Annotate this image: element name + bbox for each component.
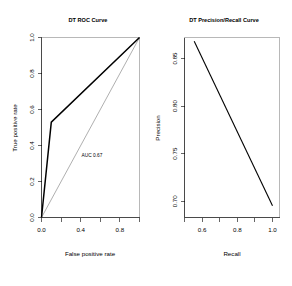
roc-plot-title: DT ROC Curve [69,17,108,23]
roc-y-tick-label-3: 0.6 [28,105,35,114]
roc-y-tick-label-4: 0.8 [28,69,35,78]
roc-y-tick-labels: 0.0 0.2 0.4 0.6 0.8 1.0 [28,33,35,222]
roc-auc-annotation: AUC 0.67 [82,153,103,158]
roc-curve-panel: DT ROC Curve 0.0 0.2 0.4 0.6 [0,0,150,286]
roc-y-tick-label-2: 0.4 [28,141,35,150]
pr-y-tick-label-2: 0.80 [171,100,178,113]
pr-x-tick-label-1: 0.6 [198,226,207,233]
pr-x-ticks [185,218,273,222]
roc-y-tick-label-5: 1.0 [28,33,35,42]
roc-x-axis-title: False positive rate [65,250,116,257]
figure-canvas: DT ROC Curve 0.0 0.2 0.4 0.6 [0,0,292,286]
pr-y-ticks [181,59,185,202]
pr-x-tick-label-5: 1.0 [268,226,277,233]
pr-y-tick-label-3: 0.85 [171,52,178,65]
roc-x-tick-label-4: 0.8 [116,226,125,233]
pr-plot-title: DT Precision/Recall Curve [189,17,259,23]
roc-x-tick-label-0: 0.0 [37,226,46,233]
pr-y-axis-title: Precision [154,115,161,141]
roc-y-tick-label-0: 0.0 [28,213,35,222]
roc-plot-svg: DT ROC Curve 0.0 0.2 0.4 0.6 [0,0,150,286]
roc-x-ticks [42,218,140,222]
pr-x-axis-title: Recall [223,250,240,257]
pr-curve-line [194,41,272,206]
pr-y-tick-labels: 0.70 0.75 0.80 0.85 [171,52,178,207]
roc-reference-line [42,38,140,218]
pr-x-tick-labels: 0.6 0.8 1.0 [198,226,278,233]
roc-y-axis-title: True positive rate [11,104,18,152]
pr-plot-svg: DT Precision/Recall Curve 0.70 0.75 0.80… [146,0,292,286]
roc-y-ticks [38,38,42,218]
roc-y-tick-label-1: 0.2 [28,177,35,186]
precision-recall-panel: DT Precision/Recall Curve 0.70 0.75 0.80… [146,0,292,286]
pr-y-tick-label-0: 0.70 [171,195,178,208]
pr-y-tick-label-1: 0.75 [171,147,178,160]
roc-x-tick-labels: 0.0 0.4 0.8 [37,226,125,233]
pr-x-tick-label-3: 0.8 [233,226,242,233]
roc-x-tick-label-2: 0.4 [76,226,85,233]
